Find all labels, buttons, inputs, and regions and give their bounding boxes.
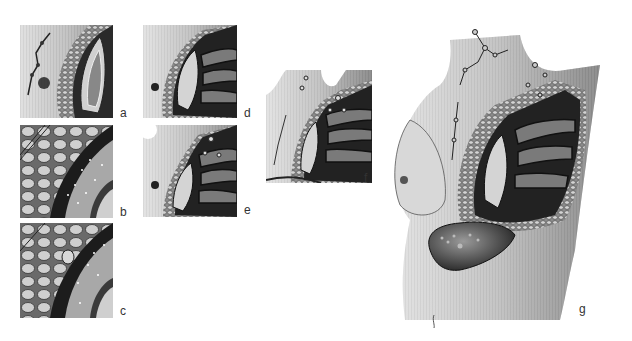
panel-label-e: e — [244, 204, 251, 216]
tissue-detail-illustration — [20, 125, 113, 218]
panel-label-f: f — [364, 172, 367, 184]
panel-f — [266, 70, 372, 183]
panel-label-b: b — [120, 206, 127, 218]
panel-label-g: g — [579, 303, 586, 315]
breast-axilla-illustration — [143, 125, 237, 217]
panel-label-a: a — [120, 107, 127, 119]
panel-d — [143, 25, 237, 118]
panel-label-d: d — [244, 107, 251, 119]
panel-label-c: c — [120, 305, 126, 317]
panel-e — [143, 125, 237, 217]
tissue-nodule-illustration — [20, 223, 113, 318]
panel-c — [20, 223, 113, 318]
breast-section-illustration — [20, 25, 113, 118]
panel-g — [390, 20, 605, 330]
panel-b — [20, 125, 113, 218]
panel-a — [20, 25, 113, 118]
breast-muscle-illustration — [143, 25, 237, 118]
torso-illustration — [390, 20, 605, 330]
chest-axilla-illustration — [266, 70, 372, 183]
